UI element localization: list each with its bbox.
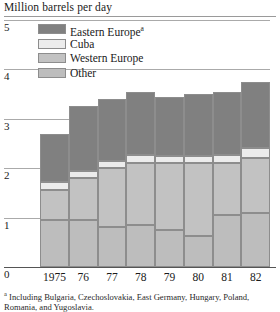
- y-axis-tick-1: 1: [4, 220, 10, 231]
- bar-segment-other-1975: [40, 220, 69, 267]
- bar-segment-other-78: [126, 225, 155, 267]
- bar-segment-western-europe-79: [155, 163, 184, 230]
- bar-segment-eastern-europe-78: [126, 92, 155, 155]
- x-axis-tick-79: 79: [155, 270, 184, 284]
- bar-segment-cuba-80: [184, 156, 213, 163]
- bar-segment-western-europe-76: [69, 178, 98, 220]
- x-axis-tick-82: 82: [241, 270, 270, 284]
- bar-segment-western-europe-81: [213, 163, 242, 215]
- legend-label-western-europe: Western Europe: [70, 51, 143, 65]
- bar-segment-other-81: [213, 215, 242, 267]
- y-axis-tick-5: 5: [4, 22, 10, 33]
- bar-segment-cuba-78: [126, 155, 155, 163]
- footnote-marker: a: [4, 290, 7, 297]
- bar-segment-western-europe-77: [98, 168, 127, 227]
- y-axis-tick-2: 2: [4, 170, 10, 181]
- bar-81: [213, 20, 242, 267]
- legend-swatch-other: [38, 68, 66, 78]
- bar-segment-cuba-77: [98, 161, 127, 168]
- y-axis-tick-0: 0: [4, 269, 10, 280]
- legend-label-other: Other: [70, 66, 96, 80]
- bar-segment-other-79: [155, 230, 184, 267]
- legend-swatch-western-europe: [38, 53, 66, 63]
- bar-segment-eastern-europe-77: [98, 99, 127, 161]
- bar-segment-other-77: [98, 227, 127, 267]
- bar-segment-cuba-1975: [40, 182, 69, 191]
- bar-segment-other-82: [241, 213, 270, 267]
- bar-80: [184, 20, 213, 267]
- x-axis-baseline: [4, 267, 276, 268]
- chart-footnote: a Including Bulgaria, Czechoslovakia, Ea…: [4, 289, 276, 312]
- y-axis-tick-4: 4: [4, 71, 10, 82]
- bar-segment-eastern-europe-1975: [40, 134, 69, 182]
- bar-79: [155, 20, 184, 267]
- legend-swatch-cuba: [38, 39, 66, 49]
- bar-segment-western-europe-80: [184, 163, 213, 236]
- x-axis-tick-77: 77: [98, 270, 127, 284]
- x-axis-tick-labels: 197576777879808182: [40, 270, 270, 286]
- x-axis-tick-76: 76: [69, 270, 98, 284]
- bar-segment-cuba-81: [213, 155, 242, 163]
- bar-segment-eastern-europe-81: [213, 92, 242, 155]
- legend-swatch-eastern-europe: [38, 24, 66, 34]
- bar-segment-other-76: [69, 220, 98, 267]
- title-divider: [4, 16, 276, 17]
- bar-segment-western-europe-1975: [40, 190, 69, 220]
- bar-segment-cuba-76: [69, 171, 98, 178]
- legend-label-cuba: Cuba: [70, 37, 94, 51]
- chart-title: Million barrels per day: [4, 1, 112, 13]
- footnote-line-1: Including Bulgaria, Czechoslovakia, East…: [9, 292, 221, 302]
- bar-segment-other-80: [184, 236, 213, 267]
- bar-segment-cuba-82: [241, 148, 270, 158]
- bar-segment-western-europe-78: [126, 163, 155, 225]
- x-axis-tick-81: 81: [213, 270, 242, 284]
- y-axis-tick-3: 3: [4, 121, 10, 132]
- bar-segment-cuba-79: [155, 156, 184, 163]
- bar-segment-eastern-europe-76: [69, 106, 98, 170]
- bar-segment-eastern-europe-82: [241, 82, 270, 149]
- x-axis-tick-1975: 1975: [40, 270, 69, 284]
- x-axis-tick-80: 80: [184, 270, 213, 284]
- bar-segment-eastern-europe-80: [184, 94, 213, 156]
- stacked-bar-chart: Million barrels per day 012345 Eastern E…: [0, 0, 280, 312]
- bar-82: [241, 20, 270, 267]
- bar-segment-western-europe-82: [241, 158, 270, 212]
- bar-segment-eastern-europe-79: [155, 97, 184, 156]
- x-axis-tick-78: 78: [126, 270, 155, 284]
